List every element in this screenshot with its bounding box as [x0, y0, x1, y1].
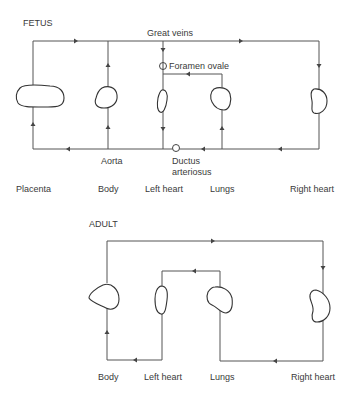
- adult-organ-body: Body: [98, 372, 119, 383]
- fetus-lungs-organ: [211, 88, 231, 110]
- fetus-right-heart-organ: [311, 89, 327, 114]
- adult-organ-right-heart: Right heart: [291, 372, 335, 383]
- fetus-organ-left-heart: Left heart: [145, 184, 183, 195]
- fetus-organ-placenta: Placenta: [16, 184, 51, 195]
- adult-lungs-organ: [207, 287, 232, 313]
- adult-title: ADULT: [89, 219, 118, 230]
- aorta-label: Aorta: [101, 156, 123, 167]
- fetus-body-organ: [95, 87, 117, 108]
- adult-right-heart-organ: [310, 290, 330, 322]
- ductus-label-line1: Ductus: [172, 156, 200, 167]
- fetus-circuit: [33, 41, 319, 149]
- fetus-flow-arrows: [31, 39, 322, 152]
- fetus-organ-body: Body: [98, 184, 119, 195]
- fetus-organ-lungs: Lungs: [210, 184, 235, 195]
- circulation-diagram: [0, 0, 353, 396]
- adult-organ-lungs: Lungs: [210, 372, 235, 383]
- ductus-arteriosus-marker: [173, 145, 180, 152]
- fetus-title: FETUS: [23, 18, 53, 29]
- placenta-organ: [16, 85, 64, 107]
- fetus-left-heart-organ: [157, 90, 167, 113]
- adult-left-heart-organ: [155, 286, 167, 314]
- adult-body-organ: [89, 284, 119, 309]
- ductus-label-line2: arteriosus: [172, 167, 212, 178]
- adult-organ-left-heart: Left heart: [144, 372, 182, 383]
- great-veins-label: Great veins: [147, 28, 193, 39]
- foramen-ovale-label: Foramen ovale: [169, 61, 229, 72]
- fetus-organ-right-heart: Right heart: [290, 184, 334, 195]
